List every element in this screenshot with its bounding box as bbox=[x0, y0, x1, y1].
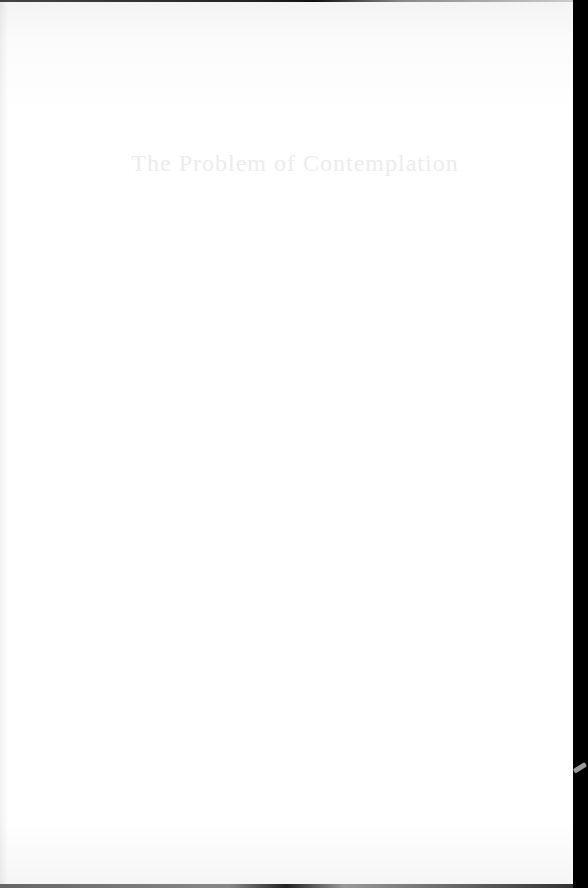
book-page: The Problem of Contemplation bbox=[0, 0, 573, 886]
page-bottom-edge bbox=[0, 884, 573, 888]
chapter-title: The Problem of Contemplation bbox=[120, 150, 470, 177]
scan-border-right bbox=[573, 0, 588, 888]
page-top-edge bbox=[0, 0, 573, 2]
page-left-shadow bbox=[0, 0, 8, 886]
